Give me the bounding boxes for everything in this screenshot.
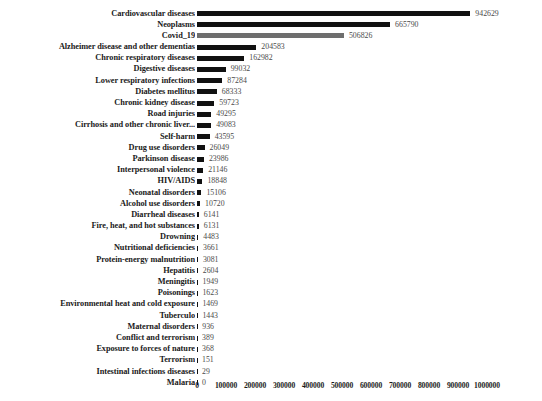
category-label: Nutritional deficiencies (0, 242, 195, 253)
bar (197, 324, 198, 329)
bar-value-label: 3081 (203, 254, 219, 265)
category-label: Exposure to forces of nature (0, 343, 195, 354)
bar-value-label: 151 (202, 354, 214, 365)
bar-value-label: 942629 (475, 8, 498, 19)
bar-row: Meningitis1949 (0, 277, 542, 288)
bar-track: 29 (197, 366, 542, 377)
category-label: Malaria (0, 377, 195, 388)
bar (197, 347, 198, 352)
bar (197, 157, 204, 162)
x-axis-tick-label: 700000 (389, 381, 411, 390)
category-label: Environmental heat and cold exposure (0, 298, 195, 309)
bar-row: Self-harm43595 (0, 131, 542, 142)
bar (197, 358, 198, 363)
bar (197, 369, 198, 374)
category-label: Cirrhosis and other chronic liver... (0, 119, 195, 130)
x-axis-tick-label: 0 (195, 381, 199, 390)
x-axis-tick-label: 800000 (418, 381, 440, 390)
category-label: HIV/AIDS (0, 175, 195, 186)
bar (197, 67, 226, 72)
category-label: Fire, heat, and hot substances (0, 220, 195, 231)
bar-row: Intestinal infections diseases29 (0, 366, 542, 377)
category-label: Road injuries (0, 108, 195, 119)
bar-value-label: 2604 (203, 265, 219, 276)
bar-track: 942629 (197, 8, 542, 19)
bar-value-label: 6141 (204, 209, 220, 220)
category-label: Protein-energy malnutrition (0, 254, 195, 265)
category-label: Conflict and terrorism (0, 332, 195, 343)
bar-value-label: 49295 (216, 108, 236, 119)
bar-row: Cirrhosis and other chronic liver...4908… (0, 120, 542, 131)
bar (197, 201, 200, 206)
category-label: Chronic respiratory diseases (0, 52, 195, 63)
bar-value-label: 1469 (202, 298, 218, 309)
bar-row: HIV/AIDS18848 (0, 176, 542, 187)
bar (197, 336, 198, 341)
bar-value-label: 506826 (349, 30, 372, 41)
bar-chart: Cardiovascular diseases942629Neoplasms66… (0, 0, 542, 401)
bar-value-label: 49083 (216, 119, 236, 130)
bar-row: Nutritional deficiencies3661 (0, 243, 542, 254)
bar-track: 49295 (197, 109, 542, 120)
bar (197, 257, 198, 262)
x-axis-tick-label: 300000 (273, 381, 295, 390)
x-axis-tick-label: 500000 (331, 381, 353, 390)
bar-track: 204583 (197, 42, 542, 53)
bar-track: 1443 (197, 310, 542, 321)
category-label: Neonatal disorders (0, 187, 195, 198)
category-label: Alzheimer disease and other dementias (0, 41, 195, 52)
category-label: Alcohol use disorders (0, 198, 195, 209)
bar (197, 268, 198, 273)
bar (197, 101, 214, 106)
category-label: Neoplasms (0, 19, 195, 30)
bar-value-label: 99032 (231, 63, 251, 74)
bar-row: Fire, heat, and hot substances6131 (0, 221, 542, 232)
bar-value-label: 10720 (205, 198, 225, 209)
bar-value-label: 15106 (206, 187, 226, 198)
bar-value-label: 1623 (202, 287, 218, 298)
x-axis: 0100000200000300000400000500000600000700… (197, 381, 487, 395)
bar-track: 23986 (197, 153, 542, 164)
bar-value-label: 18848 (207, 175, 227, 186)
bar-value-label: 68333 (222, 86, 242, 97)
bar (197, 190, 201, 195)
x-axis-tick-label: 400000 (302, 381, 324, 390)
category-label: Chronic kidney disease (0, 97, 195, 108)
bar (197, 280, 198, 285)
x-axis-tick-label: 1000000 (474, 381, 500, 390)
bar-row: Road injuries49295 (0, 109, 542, 120)
category-label: Intestinal infections diseases (0, 366, 195, 377)
bar-track: 2604 (197, 265, 542, 276)
bar-row: Diarrheal diseases6141 (0, 209, 542, 220)
bar (197, 291, 198, 296)
bar-track: 59723 (197, 98, 542, 109)
bar-track: 151 (197, 355, 542, 366)
bar (197, 302, 198, 307)
bar-track: 99032 (197, 64, 542, 75)
bar-track: 368 (197, 344, 542, 355)
bar-track: 18848 (197, 176, 542, 187)
category-label: Covid_19 (0, 30, 195, 41)
bar-value-label: 665790 (395, 19, 418, 30)
bar-row: Chronic respiratory diseases162982 (0, 53, 542, 64)
bar-row: Covid_19506826 (0, 30, 542, 41)
category-label: Digestive diseases (0, 63, 195, 74)
category-label: Maternal disorders (0, 321, 195, 332)
bar-value-label: 3661 (203, 242, 219, 253)
bar-row: Parkinson disease23986 (0, 153, 542, 164)
category-label: Parkinson disease (0, 153, 195, 164)
category-label: Interpersonal violence (0, 164, 195, 175)
category-label: Self-harm (0, 131, 195, 142)
plot-area: Cardiovascular diseases942629Neoplasms66… (0, 8, 542, 360)
bar-track: 4483 (197, 232, 542, 243)
bar (197, 22, 390, 27)
bar (197, 123, 211, 128)
bar-row: Maternal disorders936 (0, 321, 542, 332)
bar (197, 89, 217, 94)
x-axis-tick-label: 200000 (244, 381, 266, 390)
bar-track: 1623 (197, 288, 542, 299)
bar-value-label: 1949 (203, 276, 219, 287)
bar-row: Poisonings1623 (0, 288, 542, 299)
bar-track: 1469 (197, 299, 542, 310)
bar-track: 15106 (197, 187, 542, 198)
